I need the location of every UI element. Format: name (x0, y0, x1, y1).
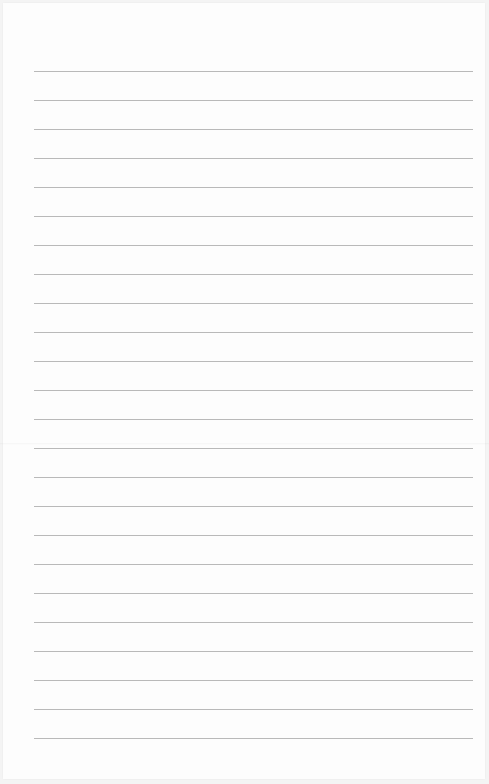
ruled-line (34, 709, 473, 710)
ruled-line (34, 448, 473, 449)
ruled-line (34, 71, 473, 72)
ruled-line (34, 158, 473, 159)
ruled-line (34, 390, 473, 391)
ruled-line (34, 477, 473, 478)
ruled-line (34, 303, 473, 304)
ruled-line (34, 100, 473, 101)
ruled-line (34, 564, 473, 565)
ruled-line (34, 593, 473, 594)
ruled-line (34, 216, 473, 217)
ruled-line (34, 419, 473, 420)
fold-crease (0, 443, 489, 445)
ruled-line (34, 274, 473, 275)
ruled-line (34, 187, 473, 188)
ruled-line (34, 535, 473, 536)
ruled-line (34, 129, 473, 130)
ruled-line (34, 506, 473, 507)
ruled-line (34, 651, 473, 652)
ruled-line (34, 680, 473, 681)
ruled-line (34, 245, 473, 246)
ruled-line (34, 332, 473, 333)
ruled-line (34, 361, 473, 362)
ruled-line (34, 622, 473, 623)
paper-sheet (3, 3, 485, 779)
ruled-line (34, 738, 473, 739)
